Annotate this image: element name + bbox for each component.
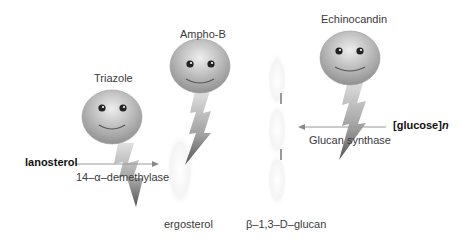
smiley-face-icon xyxy=(320,31,380,85)
lightning-bolt-icon xyxy=(339,80,366,160)
drug-label-triazole: Triazole xyxy=(94,72,133,84)
substrate-lanosterol: lanosterol xyxy=(25,156,78,168)
substrate-glucose-n: [glucose]n xyxy=(393,119,449,131)
wall-tick-2 xyxy=(280,149,282,160)
ergosterol-membrane xyxy=(166,132,194,208)
glucose-n-subscript: n xyxy=(442,119,449,131)
drug-label-echinocandin: Echinocandin xyxy=(321,13,387,25)
wall-tick-1 xyxy=(280,93,282,104)
product-beta-glucan: β–1,3–D–glucan xyxy=(246,218,326,230)
enzyme-glucan-synthase: Glucan synthase xyxy=(309,134,391,146)
product-ergosterol: ergosterol xyxy=(164,218,213,230)
lightning-bolt-icon xyxy=(185,91,211,165)
triazole-agent xyxy=(82,90,143,207)
glucose-text: [glucose] xyxy=(393,119,442,131)
smiley-face-icon xyxy=(170,39,230,93)
drug-label-ampho-b: Ampho-B xyxy=(180,28,226,40)
smiley-face-icon xyxy=(82,90,142,144)
diagram-canvas xyxy=(0,0,461,244)
glucose-to-glucan-arrow xyxy=(298,124,386,130)
glucan-wall xyxy=(267,52,287,208)
enzyme-14-alpha-demethylase: 14–α–demethylase xyxy=(76,171,169,183)
